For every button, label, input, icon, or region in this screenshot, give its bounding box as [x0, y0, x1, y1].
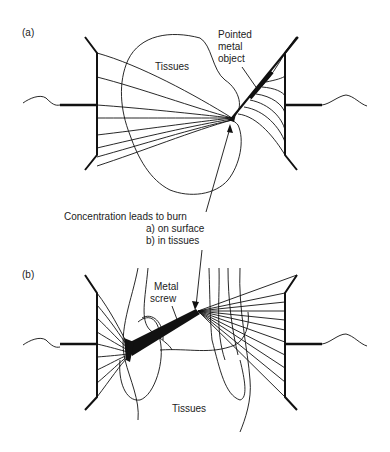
panel-a-object-label-2: metal	[218, 41, 242, 52]
arrowhead-b-icon	[192, 301, 199, 310]
panel-a-right-field-lines	[238, 53, 285, 155]
panel-a-right-electrode	[285, 37, 367, 170]
diagram: (a) Tissues Pointed metal o	[0, 0, 390, 452]
panel-b-tissue-label: Tissues	[172, 403, 206, 414]
panel-b-screw-label-1: Metal	[154, 281, 178, 292]
arrow-to-point-a	[206, 128, 230, 212]
panel-b: (b) Tissues Metal screw	[22, 268, 367, 432]
panel-b-right-field-lines	[198, 275, 297, 397]
panel-a-left-electrode	[23, 37, 97, 170]
annotation-title: Concentration leads to burn	[64, 211, 187, 222]
panel-a-object-label-1: Pointed	[218, 29, 252, 40]
panel-a-object-leader	[242, 67, 258, 90]
arrowhead-a-icon	[227, 124, 233, 133]
arrow-to-screw-b	[196, 250, 202, 306]
panel-a-object-label-3: object	[218, 53, 245, 64]
annotation-item-a: a) on surface	[146, 223, 205, 234]
panel-a: (a) Tissues Pointed metal o	[22, 27, 367, 194]
panel-b-label: (b)	[22, 269, 34, 280]
panel-b-left-electrode	[23, 275, 97, 410]
panel-b-right-electrode	[285, 275, 367, 410]
panel-b-metal-screw	[124, 309, 200, 362]
annotation-item-b: b) in tissues	[146, 235, 199, 246]
panel-a-tissue-label: Tissues	[155, 61, 189, 72]
panel-b-screw-label-2: screw	[150, 293, 177, 304]
panel-a-label: (a)	[22, 27, 34, 38]
